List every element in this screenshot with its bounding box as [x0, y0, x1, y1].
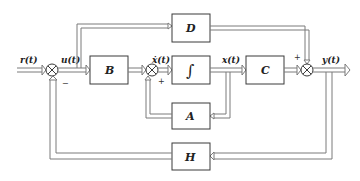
block-b-label: B — [104, 64, 114, 77]
state-derivative-line — [158, 65, 172, 75]
block-diagram: r(t) − u(t) B + ẋ(t) ∫ — [0, 0, 360, 181]
state-feedback-to-a — [210, 72, 230, 119]
block-a-label: A — [185, 110, 195, 123]
block-c-label: C — [261, 64, 270, 77]
b-to-sum2-line — [128, 65, 146, 75]
summing-junction-1 — [46, 64, 58, 76]
control-signal-line — [58, 65, 90, 75]
input-signal-line — [17, 65, 46, 75]
state-derivative-label: ẋ(t) — [151, 55, 170, 65]
integrator-icon: ∫ — [186, 61, 194, 80]
output-label: y(t) — [321, 55, 340, 65]
sum3-plus-sign: + — [294, 53, 301, 62]
output-feedback-to-h — [210, 72, 332, 160]
sum1-minus-sign: − — [62, 79, 69, 88]
c-to-sum3-line — [284, 65, 301, 75]
state-signal-line — [210, 65, 246, 75]
block-d-label: D — [185, 22, 196, 35]
block-h-label: H — [184, 151, 196, 164]
summing-junction-2 — [146, 64, 158, 76]
summing-junction-3 — [301, 64, 313, 76]
input-label: r(t) — [20, 55, 37, 65]
state-label: x(t) — [221, 55, 240, 65]
sum2-plus-sign: + — [158, 77, 165, 86]
